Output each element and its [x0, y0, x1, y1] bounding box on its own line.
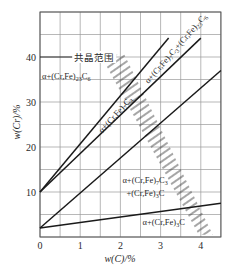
chart-svg: 0123410203040 共晶范围α+(Cr,Fe)23C6α+(Cr,Fe)… — [0, 0, 234, 271]
phase-region-label: α+(Cr,Fe)3C — [143, 217, 186, 228]
y-tick-label: 30 — [26, 97, 36, 108]
phase-region-label: α+(Cr,Fe)7C3 — [122, 175, 167, 186]
x-tick-label: 2 — [118, 240, 123, 251]
x-axis-label: w(C)/% — [104, 253, 135, 265]
phase-diagram-chart: 0123410203040 共晶范围α+(Cr,Fe)23C6α+(Cr,Fe)… — [0, 0, 234, 271]
x-tick-label: 4 — [198, 240, 203, 251]
x-tick-label: 0 — [38, 240, 43, 251]
axis-tick-labels: 0123410203040 — [26, 52, 203, 252]
phase-region-label: α+(Cr,Fe)23C6 — [42, 71, 90, 82]
hatched-eutectic-region — [100, 55, 213, 235]
y-tick-label: 20 — [26, 142, 36, 153]
phase-region-label: +(Cr,Fe)3C — [126, 188, 164, 199]
phase-region-label: α+(Cr,Fe)7C3+(Cr,Fe)23C6 — [143, 11, 210, 86]
y-tick-label: 40 — [26, 52, 36, 63]
y-axis-label: w(Cr)/% — [11, 105, 23, 140]
y-tick-label: 10 — [26, 187, 36, 198]
eutectic-range-label: 共晶范围 — [74, 52, 114, 63]
x-tick-label: 1 — [78, 240, 83, 251]
x-tick-label: 3 — [158, 240, 163, 251]
eutectic-range-band — [100, 55, 213, 235]
